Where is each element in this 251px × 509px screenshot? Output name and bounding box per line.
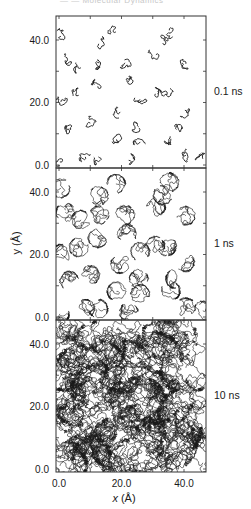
molecule-trajectory: [69, 238, 88, 257]
molecule-trajectory: [95, 60, 100, 70]
y-axis-title: y (Å): [10, 231, 22, 254]
molecule-trajectory: [65, 125, 72, 134]
molecule-trajectory: [112, 134, 122, 143]
molecule-trajectory: [129, 154, 135, 165]
panel-time-label: 0.1 ns: [214, 85, 243, 97]
panel-time-label: 1 ns: [214, 237, 234, 249]
y-tick-label: 20.0: [30, 401, 50, 412]
molecule-trajectory: [94, 157, 102, 165]
x-axis-unit: (Å): [118, 492, 136, 504]
molecule-trajectory: [116, 205, 135, 224]
molecule-trajectory: [162, 282, 181, 299]
molecule-trajectory: [178, 256, 194, 273]
panel-time-label: 10 ns: [214, 389, 240, 401]
molecule-trajectory: [91, 79, 101, 88]
y-tick-label: 0.0: [35, 160, 49, 171]
molecule-trajectory: [161, 35, 168, 45]
y-axis-unit: (Å): [10, 231, 22, 249]
trajectory-figure: 0.020.040.00.1 ns0.020.040.01 ns0.020.04…: [0, 0, 251, 509]
molecule-trajectory: [182, 149, 188, 162]
y-tick-label: 20.0: [30, 97, 50, 108]
molecule-trajectory: [72, 210, 90, 229]
x-tick-label-40: 40.0: [174, 478, 194, 489]
y-tick-label: 0.0: [35, 464, 49, 475]
molecule-trajectory: [166, 270, 177, 289]
panel-0-1-ns: 0.020.040.00.1 ns: [30, 16, 243, 171]
molecule-trajectory: [98, 37, 105, 49]
panel-1-ns: 0.020.040.01 ns: [30, 168, 234, 323]
molecule-trajectory: [148, 50, 159, 59]
molecule-trajectory: [74, 63, 81, 74]
panel-10-ns: 0.020.040.010 ns: [30, 308, 240, 494]
molecule-trajectory: [134, 98, 147, 104]
molecule-trajectory: [82, 265, 100, 283]
molecule-trajectory: [180, 109, 190, 118]
y-tick-label: 40.0: [30, 35, 50, 46]
molecule-trajectory: [130, 284, 149, 302]
molecule-trajectory: [72, 88, 79, 96]
molecule-trajectory: [86, 116, 96, 127]
molecule-trajectory: [120, 59, 131, 68]
molecule-trajectory: [175, 124, 183, 132]
y-tick-label: 40.0: [30, 339, 50, 350]
panel-frame: [56, 16, 206, 168]
molecule-trajectory: [91, 205, 110, 224]
molecule-trajectory: [108, 26, 116, 34]
panels-group: 0.020.040.00.1 ns0.020.040.01 ns0.020.04…: [30, 16, 243, 494]
trajectories: [33, 308, 231, 494]
molecule-trajectory: [164, 136, 171, 145]
molecule-trajectory: [161, 88, 173, 97]
molecule-trajectory: [91, 187, 109, 205]
molecule-trajectory: [59, 271, 78, 288]
molecule-trajectory: [117, 224, 136, 240]
molecule-trajectory: [57, 29, 65, 40]
molecule-trajectory: [56, 97, 67, 105]
molecule-trajectory: [132, 122, 140, 133]
trajectories: [51, 172, 212, 323]
molecule-trajectory: [110, 256, 128, 273]
molecule-trajectory: [155, 87, 162, 97]
molecule-trajectory: [177, 206, 195, 226]
molecule-trajectory: [51, 179, 70, 198]
molecule-trajectory: [88, 229, 107, 248]
molecule-trajectory: [180, 298, 196, 316]
molecule-trajectory: [51, 244, 69, 260]
molecule-trajectory: [64, 54, 72, 66]
molecule-trajectory: [107, 282, 127, 300]
molecule-trajectory: [126, 76, 133, 84]
molecule-trajectory: [180, 59, 188, 69]
molecule-trajectory: [147, 199, 166, 217]
x-axis-title: x (Å): [111, 492, 135, 504]
molecule-trajectory: [79, 154, 90, 162]
molecule-trajectory: [133, 139, 145, 145]
y-tick-label: 0.0: [35, 312, 49, 323]
molecule-trajectory: [166, 28, 173, 39]
molecule-trajectory: [113, 107, 120, 118]
molecule-trajectory: [195, 153, 204, 160]
y-tick-label: 20.0: [30, 249, 50, 260]
y-tick-label: 40.0: [30, 187, 50, 198]
trajectories: [54, 26, 205, 166]
molecule-trajectory: [130, 242, 150, 260]
x-tick-label-0: 0.0: [52, 478, 66, 489]
molecule-trajectory: [107, 174, 126, 193]
x-tick-label-20: 20.0: [112, 478, 132, 489]
molecule-trajectory: [79, 299, 95, 316]
